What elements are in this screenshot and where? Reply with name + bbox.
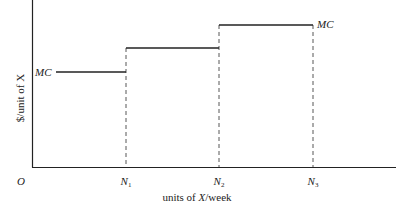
tick-n3: N3: [307, 175, 319, 189]
origin-label: O: [17, 175, 25, 187]
mc-step-diagram: MC MC $/unit of X O N1 N2 N3 units of X/…: [0, 0, 402, 211]
y-axis-label: $/unit of X: [14, 74, 26, 122]
x-axis-label: units of X/week: [162, 191, 232, 203]
mc-label-left: MC: [34, 66, 52, 78]
tick-n1: N1: [120, 175, 132, 189]
mc-label-right: MC: [316, 18, 334, 30]
tick-n2: N2: [213, 175, 225, 189]
